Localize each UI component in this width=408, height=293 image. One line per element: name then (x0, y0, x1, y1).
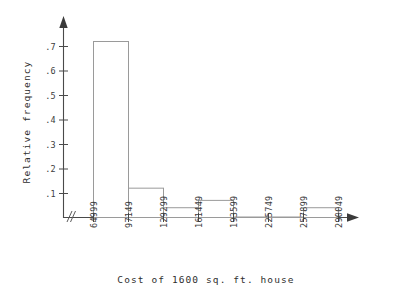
y-tick-label: .3 (45, 140, 56, 150)
histogram-svg: .7 .6 .5 .4 .3 .2 .1 Relative frequency (0, 0, 408, 293)
y-tick-label: .6 (45, 66, 56, 76)
y-tick-label: .5 (45, 91, 56, 101)
y-tick-label: .7 (45, 42, 56, 52)
y-tick-label: .2 (45, 164, 56, 174)
histogram-figure: .7 .6 .5 .4 .3 .2 .1 Relative frequency (0, 0, 408, 293)
x-tick-label: 64999 (89, 201, 99, 228)
x-tick-label: 290049 (334, 195, 344, 228)
x-tick-label: 193599 (229, 195, 239, 228)
y-tick-label: .1 (45, 189, 56, 199)
x-axis-title: Cost of 1600 sq. ft. house (117, 274, 294, 285)
chart-background (0, 0, 408, 293)
histogram-bar (94, 42, 129, 218)
y-axis-title: Relative frequency (21, 61, 32, 184)
x-tick-label: 225749 (264, 195, 274, 228)
x-tick-label: 129299 (159, 195, 169, 228)
x-tick-label: 161449 (194, 195, 204, 228)
y-tick-label: .4 (45, 115, 56, 125)
x-tick-label: 97149 (124, 201, 134, 228)
x-tick-label: 257899 (299, 195, 309, 228)
